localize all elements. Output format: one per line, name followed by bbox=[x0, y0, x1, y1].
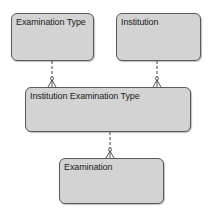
crows-foot-icon bbox=[48, 77, 56, 87]
crows-foot-icon bbox=[106, 148, 114, 158]
crows-foot-icon bbox=[153, 77, 161, 87]
relationship-examtype-to-institution-examtype[interactable] bbox=[48, 61, 56, 87]
relationship-institution-examtype-to-examination[interactable] bbox=[106, 132, 114, 158]
relationship-connectors bbox=[0, 0, 210, 215]
relationship-institution-to-institution-examtype[interactable] bbox=[153, 61, 161, 87]
